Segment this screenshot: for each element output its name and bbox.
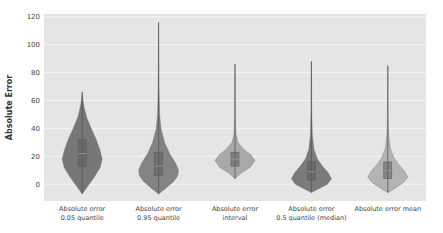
y-tick-label: 60 [31, 97, 40, 105]
x-tick-label: 0.05 quantile [61, 214, 104, 222]
y-axis-ticks: 020406080100120 [27, 13, 40, 188]
x-tick-label: 0.5 quantile (median) [276, 214, 346, 222]
x-tick-label: interval [223, 214, 248, 222]
y-tick-label: 0 [36, 181, 40, 189]
y-axis-label: Absolute Error [5, 75, 14, 141]
x-tick-label: Absolute error [212, 205, 259, 213]
violin-chart: 020406080100120 Absolute Error Absolute … [0, 0, 443, 233]
y-tick-label: 40 [31, 125, 40, 133]
x-axis-tick-labels: Absolute error0.05 quantileAbsolute erro… [59, 205, 421, 222]
violin-box [78, 140, 86, 167]
y-tick-label: 80 [31, 69, 40, 77]
y-tick-label: 120 [27, 13, 40, 21]
x-tick-label: Absolute error mean [354, 205, 421, 213]
y-tick-label: 100 [27, 41, 40, 49]
x-tick-label: Absolute error [288, 205, 335, 213]
violin-box [307, 162, 315, 180]
x-tick-label: 0.95 quantile [137, 214, 180, 222]
violin-box [155, 152, 163, 176]
y-tick-label: 20 [31, 153, 40, 161]
x-tick-label: Absolute error [59, 205, 106, 213]
x-tick-label: Absolute error [135, 205, 182, 213]
